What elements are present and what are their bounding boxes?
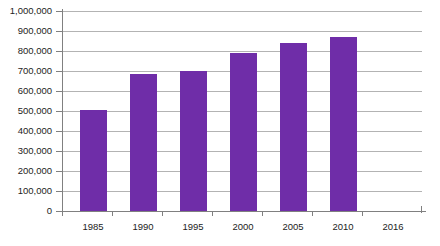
y-tick-900000: [56, 31, 63, 32]
bar-1985: [80, 110, 107, 211]
y-axis-label-100000: 100,000: [0, 186, 52, 196]
x-axis-line: [58, 211, 426, 212]
gridline-1000000: [62, 11, 422, 12]
y-tick-700000: [56, 71, 63, 72]
y-tick-500000: [56, 111, 63, 112]
y-tick-200000: [56, 171, 63, 172]
y-axis-label-400000: 400,000: [0, 126, 52, 136]
y-tick-1000000: [56, 11, 63, 12]
y-axis-label-200000: 200,000: [0, 166, 52, 176]
y-axis-label-900000: 900,000: [0, 26, 52, 36]
y-tick-600000: [56, 91, 63, 92]
x-axis-end-tick: [421, 206, 422, 213]
y-tick-300000: [56, 151, 63, 152]
bar-1990: [130, 74, 157, 211]
bar-chart: 1,000,000 900,000 800,000 700,000 600,00…: [0, 0, 440, 60]
x-axis-label-2016: 2016: [363, 221, 423, 232]
y-axis-label-0: 0: [0, 206, 52, 216]
bar-2005: [280, 43, 307, 211]
x-tick-5: [312, 211, 313, 216]
bar-1995: [180, 71, 207, 211]
y-axis-label-1000000: 1,000,000: [0, 6, 52, 16]
x-tick-2: [162, 211, 163, 216]
bar-2000: [230, 53, 257, 211]
plot-area: [62, 11, 422, 211]
gridline-900000: [62, 31, 422, 32]
y-tick-400000: [56, 131, 63, 132]
y-tick-800000: [56, 51, 63, 52]
y-tick-100000: [56, 191, 63, 192]
bar-2010: [330, 37, 357, 211]
y-axis-label-600000: 600,000: [0, 86, 52, 96]
y-axis-label-700000: 700,000: [0, 66, 52, 76]
x-tick-start: [62, 211, 63, 216]
x-tick-4: [262, 211, 263, 216]
x-tick-6: [362, 211, 363, 216]
y-axis-label-800000: 800,000: [0, 46, 52, 56]
y-axis-label-500000: 500,000: [0, 106, 52, 116]
x-tick-1: [112, 211, 113, 216]
y-axis-label-300000: 300,000: [0, 146, 52, 156]
x-tick-3: [212, 211, 213, 216]
gridline-800000: [62, 51, 422, 52]
